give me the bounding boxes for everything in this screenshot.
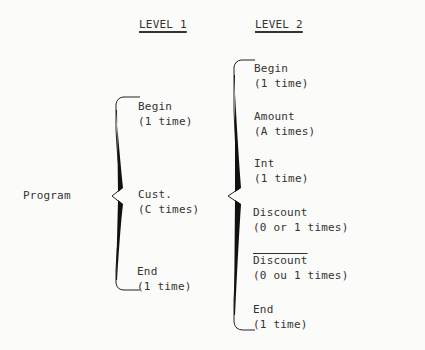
item-name: End	[137, 265, 157, 278]
level-2-item-end: End (1 time)	[253, 302, 308, 332]
level-1-brace-icon	[112, 97, 140, 290]
item-name: Amount	[254, 110, 295, 123]
item-count: (1 time)	[254, 77, 309, 90]
level-1-item-end: End (1 time)	[137, 264, 192, 294]
item-count: (1 time)	[254, 172, 309, 185]
level-2-item-discount: Discount (0 or 1 times)	[253, 205, 349, 235]
item-count: (0 ou 1 times)	[253, 269, 349, 282]
level-1-item-begin: Begin (1 time)	[138, 99, 193, 129]
level-2-item-int: Int (1 time)	[254, 156, 309, 186]
item-name: End	[253, 303, 273, 316]
level-2-item-amount: Amount (A times)	[254, 109, 315, 139]
item-name: Int	[254, 157, 274, 170]
item-name: Begin	[254, 62, 288, 75]
brace-brackets	[0, 0, 425, 350]
item-count: (C times)	[138, 203, 199, 216]
item-name: Cust.	[138, 188, 172, 201]
item-name: Discount	[253, 206, 308, 219]
level-2-item-not-discount: Discount (0 ou 1 times)	[253, 253, 349, 283]
item-name: Begin	[138, 100, 172, 113]
item-count: (0 or 1 times)	[253, 221, 349, 234]
level-2-item-begin: Begin (1 time)	[254, 61, 309, 91]
item-count: (1 time)	[137, 280, 192, 293]
item-count: (1 time)	[138, 115, 193, 128]
level-2-brace-icon	[228, 60, 255, 330]
item-count: (A times)	[254, 125, 315, 138]
item-count: (1 time)	[253, 318, 308, 331]
level-1-item-cust: Cust. (C times)	[138, 187, 199, 217]
item-name-negated: Discount	[253, 254, 308, 267]
